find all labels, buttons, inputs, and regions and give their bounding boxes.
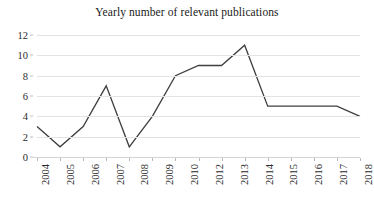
x-tick-mark-2011: [199, 158, 200, 161]
x-tick-label-2014: 2014: [265, 164, 276, 185]
y-tick-mark-12: [30, 35, 33, 36]
plot-area: [37, 35, 360, 157]
x-tick-mark-2007: [106, 158, 107, 161]
x-tick-mark-2009: [152, 158, 153, 161]
x-axis: 2004200520062007200820092010201220132014…: [37, 158, 360, 212]
y-tick-mark-4: [30, 116, 33, 117]
x-tick-label-2007: 2007: [116, 164, 127, 185]
x-tick-mark-2017: [337, 158, 338, 161]
x-tick-mark-2006: [83, 158, 84, 161]
y-tick-label-0: 0: [23, 152, 28, 163]
y-tick-label-2: 2: [23, 131, 28, 142]
x-tick-mark-2010: [175, 158, 176, 161]
line-chart-figure: Yearly number of relevant publications 0…: [0, 0, 374, 212]
y-tick-label-12: 12: [18, 30, 29, 41]
gridline-y-6: [37, 96, 360, 97]
y-tick-mark-2: [30, 136, 33, 137]
y-tick-mark-10: [30, 55, 33, 56]
x-tick-label-2016: 2016: [314, 164, 325, 185]
y-tick-label-6: 6: [23, 91, 28, 102]
x-tick-mark-2008: [129, 158, 130, 161]
x-tick-label-2009: 2009: [165, 164, 176, 185]
x-tick-mark-2015: [291, 158, 292, 161]
x-tick-label-2017: 2017: [339, 164, 350, 185]
x-tick-mark-2005: [60, 158, 61, 161]
x-tick-mark-2016: [314, 158, 315, 161]
x-tick-mark-2013: [245, 158, 246, 161]
x-tick-mark-2012: [222, 158, 223, 161]
x-tick-label-2006: 2006: [91, 164, 102, 185]
y-tick-mark-8: [30, 75, 33, 76]
y-tick-label-10: 10: [18, 50, 29, 61]
y-axis: 024681012: [0, 35, 33, 157]
x-tick-label-2013: 2013: [240, 164, 251, 185]
x-tick-label-2012: 2012: [215, 164, 226, 185]
x-tick-label-2015: 2015: [289, 164, 300, 185]
x-tick-mark-2014: [268, 158, 269, 161]
gridline-y-12: [37, 35, 360, 36]
chart-title: Yearly number of relevant publications: [0, 6, 374, 18]
x-tick-mark-2018: [360, 158, 361, 161]
gridline-y-10: [37, 55, 360, 56]
x-tick-label-2010: 2010: [190, 164, 201, 185]
gridline-y-4: [37, 116, 360, 117]
y-tick-label-8: 8: [23, 70, 28, 81]
x-tick-label-2004: 2004: [41, 164, 52, 185]
y-tick-label-4: 4: [23, 111, 28, 122]
x-tick-mark-2004: [37, 158, 38, 161]
gridline-y-8: [37, 76, 360, 77]
x-tick-label-2008: 2008: [140, 164, 151, 185]
y-tick-mark-6: [30, 96, 33, 97]
x-tick-label-2018: 2018: [364, 164, 374, 185]
gridline-y-2: [37, 137, 360, 138]
x-tick-label-2005: 2005: [66, 164, 77, 185]
